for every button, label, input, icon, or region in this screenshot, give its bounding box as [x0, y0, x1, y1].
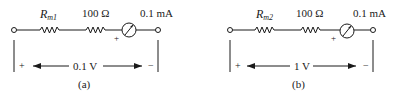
caption-b: (b)	[292, 78, 305, 91]
resistor-rm1-label: Rm1	[39, 7, 57, 22]
plus-sign-b: +	[235, 60, 241, 71]
circuit-b: Rm2 100 Ω 0.1 mA + + 1 V − (b)	[228, 7, 387, 91]
resistor-100-ohm-icon	[86, 27, 105, 33]
resistor-100-ohm-icon	[301, 27, 320, 33]
left-terminal-a	[12, 28, 17, 33]
circuit-a: Rm1 100 Ω 0.1 mA + + 0.1 V − (a)	[12, 7, 174, 91]
series-resistor-label-a: 100 Ω	[82, 7, 109, 19]
circuit-diagram: Rm1 100 Ω 0.1 mA + + 0.1 V − (a) Rm2 100…	[0, 0, 394, 108]
plus-sign-a: +	[19, 60, 25, 71]
minus-sign-a: −	[148, 60, 154, 71]
caption-a: (a)	[78, 78, 91, 91]
resistor-rm2-label: Rm2	[255, 7, 273, 22]
right-terminal-a	[156, 28, 161, 33]
left-terminal-b	[228, 28, 233, 33]
meter-polarity-a: +	[114, 33, 119, 43]
resistor-rm2-icon	[255, 27, 274, 33]
meter-label-a: 0.1 mA	[140, 7, 173, 19]
voltage-label-a: 0.1 V	[73, 60, 97, 72]
right-terminal-b	[371, 28, 376, 33]
minus-sign-b: −	[363, 60, 369, 71]
series-resistor-label-b: 100 Ω	[296, 7, 323, 19]
meter-polarity-b: +	[331, 33, 336, 43]
ammeter-icon	[340, 24, 354, 38]
ammeter-icon	[122, 23, 136, 37]
voltage-label-b: 1 V	[294, 60, 310, 72]
resistor-rm1-icon	[40, 27, 59, 33]
meter-label-b: 0.1 mA	[353, 7, 386, 19]
